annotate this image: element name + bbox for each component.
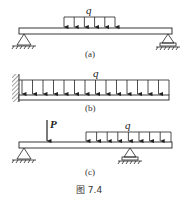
figure-caption: 图 7.4 [76, 185, 102, 195]
pin-support-icon [12, 148, 36, 163]
load-label-q-c: q [125, 119, 131, 131]
panel-b: q (b) [12, 67, 169, 113]
beam-a [19, 28, 172, 34]
panel-label-b: (b) [85, 103, 96, 113]
distributed-load-a [64, 17, 115, 27]
load-label-q-b: q [93, 67, 99, 79]
panel-label-a: (a) [85, 49, 95, 59]
panel-label-c: (c) [85, 167, 95, 177]
roller-support-icon [118, 148, 142, 164]
load-label-q-a: q [86, 4, 92, 16]
beam-c [19, 142, 172, 148]
beam-b [19, 95, 169, 100]
roller-support-icon [156, 34, 180, 50]
pin-support-icon [12, 34, 36, 49]
point-load-label-P: P [50, 118, 57, 130]
fixed-wall-icon [12, 74, 19, 102]
panel-a: q (a) [12, 4, 180, 59]
distributed-load-c [86, 132, 171, 142]
distributed-load-b [19, 80, 169, 95]
beam-figure: q (a) [0, 0, 182, 201]
panel-c: P q ( [12, 118, 172, 177]
